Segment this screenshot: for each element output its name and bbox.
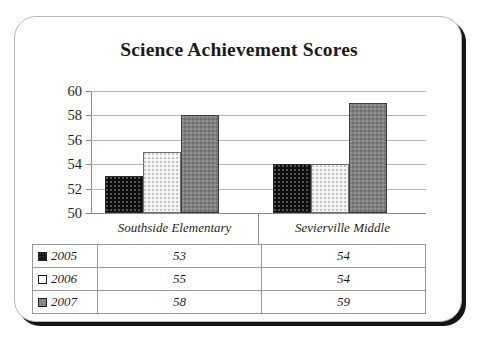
bar-2005-southside-elementary [105, 176, 143, 213]
value-2005-southside: 53 [98, 245, 262, 268]
legend-cell-2006: 2006 [33, 268, 98, 291]
value-2006-sevierville: 54 [262, 268, 426, 291]
chart-card: Science Achievement Scores 505254565860 … [14, 16, 462, 322]
legend-label-2005: 2005 [51, 248, 77, 263]
bar-2007-southside-elementary [181, 115, 219, 213]
chart-card-container: Science Achievement Scores 505254565860 … [0, 0, 481, 337]
category-label-sevierville-middle: Sevierville Middle [259, 220, 426, 236]
table-row: 2006 55 54 [33, 268, 426, 291]
category-label-southside-elementary: Southside Elementary [91, 220, 258, 236]
white-swatch-icon [38, 275, 47, 284]
legend-cell-2007: 2007 [33, 291, 98, 314]
tick-mark-56 [86, 140, 91, 141]
plot-area: 505254565860 [91, 91, 426, 213]
category-band: Southside Elementary Sevierville Middle [91, 213, 426, 244]
y-axis-label-58: 58 [68, 107, 83, 124]
tick-mark-60 [86, 91, 91, 92]
legend-label-2006: 2006 [51, 271, 77, 286]
y-axis-label-50: 50 [68, 205, 83, 222]
bar-2005-sevierville-middle [273, 164, 311, 213]
y-axis-label-52: 52 [68, 180, 83, 197]
chart-title: Science Achievement Scores [15, 39, 463, 61]
black-swatch-icon [38, 252, 47, 261]
value-2006-southside: 55 [98, 268, 262, 291]
tick-mark-54 [86, 164, 91, 165]
table-row: 2005 53 54 [33, 245, 426, 268]
tick-mark-52 [86, 189, 91, 190]
value-2007-sevierville: 59 [262, 291, 426, 314]
bar-2006-southside-elementary [143, 152, 181, 213]
tick-mark-58 [86, 115, 91, 116]
gray-swatch-icon [38, 298, 47, 307]
value-2007-southside: 58 [98, 291, 262, 314]
legend-cell-2005: 2005 [33, 245, 98, 268]
bar-2007-sevierville-middle [349, 103, 387, 213]
y-axis-label-54: 54 [68, 156, 83, 173]
y-axis-label-56: 56 [68, 131, 83, 148]
legend-label-2007: 2007 [51, 294, 77, 309]
data-table: 2005 53 54 2006 55 54 2007 58 [32, 244, 426, 314]
value-2005-sevierville: 54 [262, 245, 426, 268]
gridline-60 [91, 91, 426, 92]
table-row: 2007 58 59 [33, 291, 426, 314]
bar-2006-sevierville-middle [311, 164, 349, 213]
y-axis-label-60: 60 [68, 83, 83, 100]
